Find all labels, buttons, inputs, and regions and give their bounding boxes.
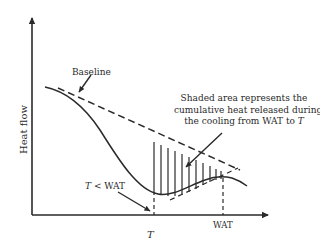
annotation-line-3: the cooling from WAT to T bbox=[174, 116, 314, 128]
dsc-diagram: Heat flow Baseline Shaded area represent… bbox=[0, 0, 320, 249]
annotation-line-1: Shaded area represents the bbox=[174, 93, 314, 105]
x-tick-wat: WAT bbox=[213, 220, 233, 230]
shaded-area-pointer-arrow bbox=[186, 133, 222, 167]
x-axis-label-t: T bbox=[147, 229, 154, 240]
y-axis-label: Heat flow bbox=[18, 105, 29, 154]
less-than-wat-text: < WAT bbox=[91, 181, 125, 191]
annotation-line-3-text: the cooling from WAT to bbox=[184, 116, 298, 126]
t-less-than-wat-label: T < WAT bbox=[85, 181, 125, 191]
shaded-area-annotation: Shaded area represents the cumulative he… bbox=[174, 93, 314, 128]
annotation-line-2: cumulative heat released during bbox=[174, 105, 314, 117]
t-pointer-arrow bbox=[118, 192, 150, 211]
baseline-pointer-arrow bbox=[79, 75, 91, 92]
baseline-label: Baseline bbox=[72, 67, 111, 77]
tangent-dashed-line bbox=[170, 168, 238, 200]
annotation-line-3-t: T bbox=[298, 116, 304, 126]
